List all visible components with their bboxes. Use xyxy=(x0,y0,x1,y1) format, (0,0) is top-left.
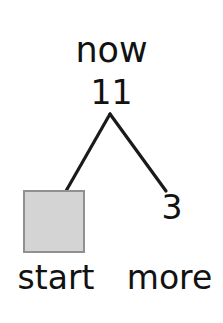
right-child-value-label: 3 xyxy=(152,191,192,224)
tree-diagram: now 11 3 start more xyxy=(0,0,223,323)
root-value-label: 11 xyxy=(0,76,223,109)
edge-root-to-more xyxy=(110,114,166,191)
edge-root-to-start xyxy=(66,114,110,191)
left-child-caption: start xyxy=(2,261,110,294)
start-node-box xyxy=(23,190,85,253)
right-child-caption: more xyxy=(116,261,223,294)
root-header-label: now xyxy=(0,33,223,68)
